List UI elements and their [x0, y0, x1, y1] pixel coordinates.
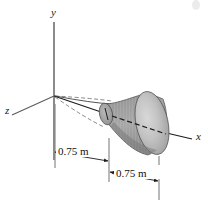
dimension-left-label: 0.75 m — [58, 145, 89, 157]
dimension-left: 0.75 m — [55, 143, 108, 161]
y-axis-label: y — [50, 6, 56, 18]
engineering-figure: 0.75 m 0.75 m y z x — [0, 0, 208, 206]
z-axis-line — [12, 96, 54, 115]
x-axis-label: x — [195, 130, 201, 142]
dimension-right: 0.75 m — [110, 165, 160, 181]
scan-artifact — [192, 0, 200, 10]
tangent-line-upper — [55, 96, 112, 101]
tangent-line-lower — [55, 97, 104, 127]
x-axis-line-near — [54, 96, 104, 113]
z-axis-label: z — [4, 104, 10, 116]
figure-canvas: 0.75 m 0.75 m y z x — [0, 0, 208, 206]
dimension-right-label: 0.75 m — [116, 167, 147, 179]
